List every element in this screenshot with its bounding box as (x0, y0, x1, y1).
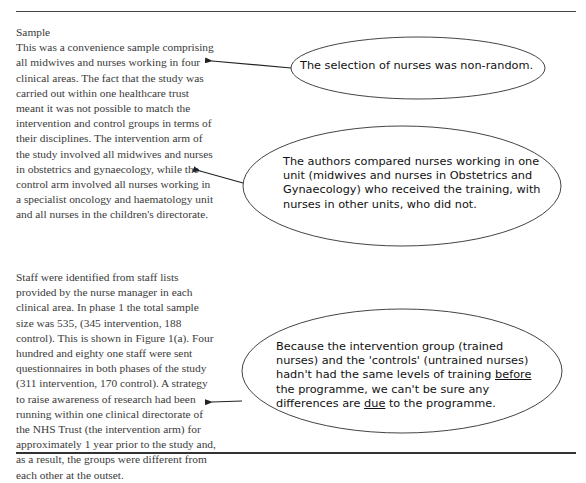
arrow-3 (212, 401, 242, 402)
annotation-3-line-3-text: hadn't had the same levels of training (276, 368, 495, 381)
annotation-2-line-1: The authors compared nurses working in o… (283, 155, 541, 169)
annotation-3-line-5-pre: differences are (276, 397, 364, 410)
bottom-divider (16, 452, 576, 454)
annotation-3-line-2: nurses) and the 'controls' (untrained nu… (276, 354, 531, 368)
arrow-1 (212, 61, 291, 68)
emphasis-due: due (364, 397, 385, 410)
annotation-text-1: The selection of nurses was non-random. (300, 59, 533, 73)
annotation-1-line: The selection of nurses was non-random. (300, 59, 533, 73)
annotation-2-line-3: Gynaecology) who received the training, … (283, 183, 541, 197)
annotation-3-line-5: differences are due to the programme. (276, 397, 531, 411)
annotation-2-line-4: nurses in other units, who did not. (283, 198, 541, 212)
annotation-2-line-2: unit (midwives and nurses in Obstetrics … (283, 169, 541, 183)
annotation-3-line-4: the programme, we can't be sure any (276, 383, 531, 397)
arrow-2 (200, 171, 243, 183)
annotation-3-line-3: hadn't had the same levels of training b… (276, 368, 531, 382)
annotation-3-line-5-post: to the programme. (385, 397, 495, 410)
emphasis-before: before (495, 368, 531, 381)
annotation-text-3: Because the intervention group (trained … (276, 340, 531, 411)
annotation-text-2: The authors compared nurses working in o… (283, 155, 541, 212)
annotation-3-line-1: Because the intervention group (trained (276, 340, 531, 354)
